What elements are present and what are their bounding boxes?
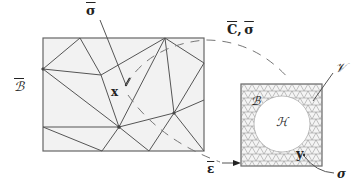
label-sigma-bar-2: σ [244, 22, 254, 37]
label-x: x [111, 86, 118, 98]
diagram-canvas [0, 0, 361, 188]
label-sigma: σ [337, 168, 346, 180]
label-B-bar: ℬ [14, 80, 24, 93]
diagram: σ ℬ x C, σ ε 𝒱 ℬ ℋ y σ [0, 0, 361, 188]
label-H: ℋ [276, 116, 288, 128]
label-C-bar: C [227, 22, 237, 37]
label-y: y [296, 147, 304, 160]
macro-mesh [42, 38, 204, 151]
label-B: ℬ [251, 95, 260, 107]
epsilon-arrow-icon [222, 160, 241, 166]
label-epsilon-bar: ε [207, 163, 214, 175]
label-sigma-bar: σ [86, 4, 96, 17]
label-V: 𝒱 [335, 61, 346, 74]
label-C-sigma: C, σ [227, 23, 254, 36]
